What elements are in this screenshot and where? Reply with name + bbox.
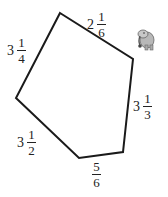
denominator: 6 <box>93 175 100 189</box>
side-label-top-left: 3 1 4 <box>7 36 26 65</box>
side-label-top-right: 2 1 6 <box>87 10 106 39</box>
side-label-bottom: 5 6 <box>92 160 101 189</box>
fraction: 1 3 <box>143 92 152 121</box>
whole-number: 2 <box>87 18 94 32</box>
numerator: 1 <box>97 10 106 24</box>
fraction: 1 4 <box>17 36 26 65</box>
numerator: 1 <box>17 36 26 50</box>
fraction: 5 6 <box>92 160 101 189</box>
whole-number: 3 <box>7 44 14 58</box>
numerator: 1 <box>27 128 36 142</box>
whole-number: 3 <box>133 100 140 114</box>
fraction: 1 2 <box>27 128 36 157</box>
whole-number: 3 <box>17 136 24 150</box>
denominator: 4 <box>18 51 25 65</box>
numerator: 5 <box>92 160 101 174</box>
denominator: 6 <box>98 25 105 39</box>
denominator: 2 <box>28 143 35 157</box>
elephant-icon <box>136 27 156 51</box>
side-label-bottom-left: 3 1 2 <box>17 128 36 157</box>
numerator: 1 <box>143 92 152 106</box>
denominator: 3 <box>144 107 151 121</box>
fraction: 1 6 <box>97 10 106 39</box>
side-label-right: 3 1 3 <box>133 92 152 121</box>
